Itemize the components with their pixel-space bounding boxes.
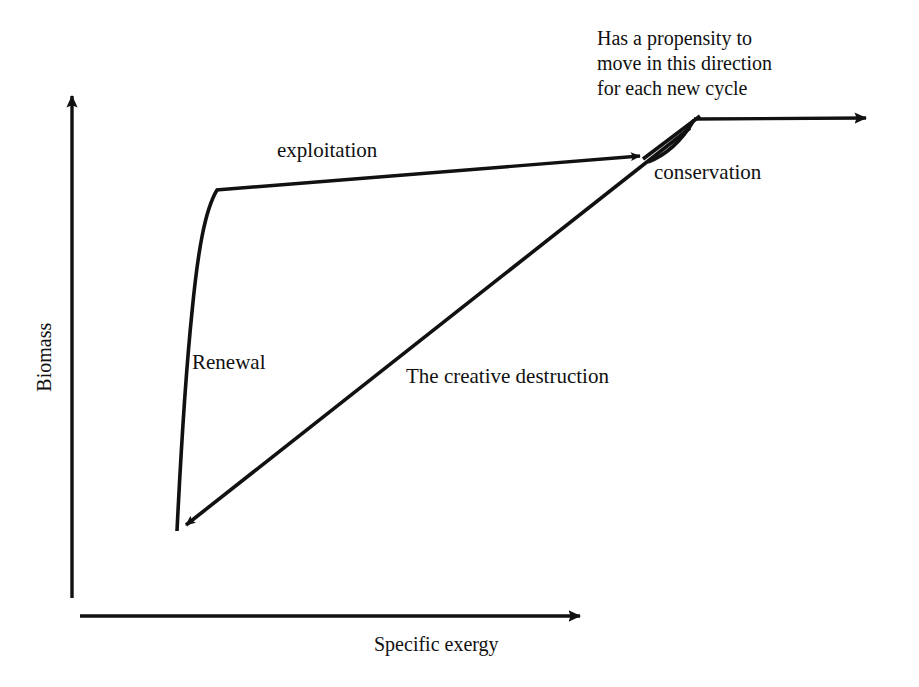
label-propensity-note: Has a propensity to move in this directi… [597, 26, 772, 101]
label-conservation: conservation [654, 160, 761, 186]
label-creative-destruction: The creative destruction [406, 364, 609, 390]
x-axis-label: Specific exergy [374, 632, 499, 656]
adaptive-cycle-figure: exploitation conservation Renewal The cr… [0, 0, 919, 687]
label-exploitation: exploitation [277, 138, 377, 164]
figure-canvas [0, 0, 919, 687]
y-axis-label: Biomass [32, 302, 56, 412]
label-renewal: Renewal [192, 350, 265, 376]
conservation-plateau-arrow [694, 118, 866, 119]
